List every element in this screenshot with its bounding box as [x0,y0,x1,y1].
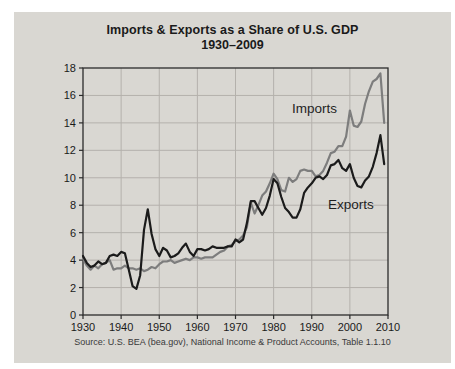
x-tick-label: 2010 [376,321,400,333]
y-tick-label: 8 [70,199,76,211]
x-tick-label: 1960 [185,321,209,333]
source-note: Source: U.S. BEA (bea.gov), National Inc… [14,337,451,347]
x-tick-label: 1980 [261,321,285,333]
y-tick-label: 10 [64,172,76,184]
exports-line [83,135,384,289]
y-tick-label: 18 [64,62,76,74]
exports-series-label: Exports [328,197,374,212]
x-tick-label: 1990 [300,321,324,333]
y-tick-label: 0 [70,309,76,321]
imports-series-label: Imports [292,101,337,116]
x-tick-label: 1950 [147,321,171,333]
plot-area: 1930194019501960197019801990200020100246… [14,12,451,363]
y-tick-label: 14 [64,117,76,129]
x-tick-label: 1930 [71,321,95,333]
y-tick-label: 12 [64,144,76,156]
y-tick-label: 16 [64,89,76,101]
x-tick-label: 2000 [338,321,362,333]
chart-card: Imports & Exports as a Share of U.S. GDP… [14,12,451,363]
x-tick-label: 1940 [109,321,133,333]
y-tick-label: 4 [70,254,76,266]
y-tick-label: 2 [70,282,76,294]
y-tick-label: 6 [70,227,76,239]
x-tick-label: 1970 [223,321,247,333]
